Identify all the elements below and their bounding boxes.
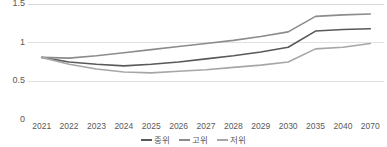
x-tick-label: 2040 (333, 120, 352, 132)
series-line-고위 (42, 14, 371, 58)
x-tick-label: 2024 (114, 120, 133, 132)
legend-label: 중위 (154, 135, 170, 145)
x-tick-label: 2035 (306, 120, 325, 132)
legend-swatch-icon (217, 139, 228, 141)
y-tick-label: 1 (1, 38, 25, 47)
plot-svg (28, 4, 384, 120)
legend-swatch-icon (141, 139, 152, 141)
legend-item-중위[interactable]: 중위 (141, 135, 170, 145)
x-tick-label: 2027 (197, 120, 216, 132)
legend-item-저위[interactable]: 저위 (217, 135, 246, 145)
series-line-중위 (42, 29, 371, 66)
gridlines (28, 4, 384, 120)
x-tick-label: 2030 (279, 120, 298, 132)
legend-item-고위[interactable]: 고위 (179, 135, 208, 145)
legend-swatch-icon (179, 139, 190, 141)
y-tick-label: 1.5 (1, 0, 25, 8)
series-lines (42, 14, 371, 73)
x-tick-label: 2028 (224, 120, 243, 132)
y-tick-label: 0 (1, 115, 25, 124)
x-tick-label: 2026 (169, 120, 188, 132)
chart-legend: 중위고위저위 (0, 133, 387, 147)
x-tick-label: 2029 (251, 120, 270, 132)
line-chart: 1.510.50 2021202220232024202520262027202… (0, 0, 387, 147)
plot-area (28, 4, 384, 120)
x-tick-label: 2025 (142, 120, 161, 132)
x-tick-label: 2023 (87, 120, 106, 132)
y-tick-label: 0.5 (1, 76, 25, 85)
legend-label: 저위 (230, 135, 246, 145)
y-axis: 1.510.50 (0, 0, 25, 124)
legend-label: 고위 (192, 135, 208, 145)
x-tick-label: 2022 (60, 120, 79, 132)
x-tick-label: 2021 (32, 120, 51, 132)
x-axis: 2021202220232024202520262027202820292030… (28, 120, 384, 133)
x-tick-label: 2070 (361, 120, 380, 132)
